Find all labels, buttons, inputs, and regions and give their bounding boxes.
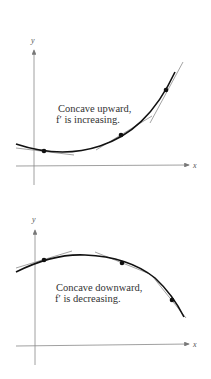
x-axis-label: x [192,340,197,349]
point-marker [170,298,175,303]
x-axis [16,344,189,346]
x-axis [16,165,189,166]
point-marker [119,133,124,138]
tangent-line [150,62,183,123]
x-axis-label: x [192,161,197,170]
y-axis-label: y [31,215,36,224]
concave-downward-graph: x y Concave downward, f′ is decreasing. [16,215,197,365]
caption-line-1: Concave upward, [58,103,131,114]
point-marker [42,149,47,154]
point-marker [164,88,169,93]
concave-upward-graph: x y Concave upward, f′ is increasing. [16,36,197,185]
caption-line-2: f′ is increasing. [56,114,120,125]
point-marker [42,258,47,263]
figure: x y Concave upward, f′ is increasing. x … [0,0,211,379]
y-axis-label: y [30,36,35,45]
caption-line-1: Concave downward, [56,282,142,293]
caption-line-2: f′ is decreasing. [55,293,121,304]
point-marker [120,261,125,266]
